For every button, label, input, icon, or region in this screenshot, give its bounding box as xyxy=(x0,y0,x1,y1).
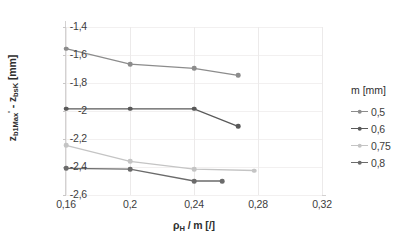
x-axis-title-sub: H xyxy=(179,224,184,233)
legend-item[interactable]: 0,8 xyxy=(351,154,391,171)
legend-item-label: 0,75 xyxy=(371,140,391,152)
series-line xyxy=(66,145,254,170)
y-axis-title-mid: - z xyxy=(6,96,18,110)
y-axis-title-main: z xyxy=(6,136,18,141)
legend-rows: 0,50,60,750,8 xyxy=(351,103,391,171)
y-tick-label: -2 xyxy=(78,104,87,116)
data-point-marker xyxy=(252,168,257,173)
data-point-marker xyxy=(236,124,241,129)
data-point-marker xyxy=(64,166,69,171)
gridline-vertical xyxy=(322,27,323,195)
data-point-marker xyxy=(192,107,197,112)
gridline-horizontal xyxy=(66,195,322,196)
data-point-marker xyxy=(128,62,133,67)
y-axis-title: zb1Max' - zbsK [mm] xyxy=(2,0,22,195)
legend-item[interactable]: 0,75 xyxy=(351,137,391,154)
x-tick-label: 0,32 xyxy=(302,198,342,210)
y-tick-label: -2,4 xyxy=(70,160,87,172)
data-point-marker xyxy=(64,143,69,148)
data-point-marker xyxy=(220,179,225,184)
y-axis-title-sub2: bsK xyxy=(11,82,20,96)
y-axis-title-sub1: b1Max xyxy=(11,112,20,135)
legend-swatch-icon xyxy=(351,124,368,133)
plot-area xyxy=(66,27,322,195)
data-point-marker xyxy=(192,179,197,184)
data-point-marker xyxy=(64,107,69,112)
series-line xyxy=(66,49,238,76)
series-line xyxy=(66,168,222,181)
x-tick-label: 0,2 xyxy=(110,198,150,210)
x-tick-label: 0,28 xyxy=(238,198,278,210)
legend-swatch-icon xyxy=(351,107,368,116)
legend-swatch-icon xyxy=(351,141,368,150)
legend-title: m [mm] xyxy=(351,84,391,96)
data-point-marker xyxy=(128,167,133,172)
legend-swatch-icon xyxy=(351,158,368,167)
y-axis-title-text: zb1Max' - zbsK [mm] xyxy=(6,54,18,140)
y-axis-title-unit: [mm] xyxy=(6,54,18,82)
y-tick-label: -1,4 xyxy=(70,20,87,32)
series-line xyxy=(66,109,238,127)
legend-item[interactable]: 0,6 xyxy=(351,120,391,137)
data-point-marker xyxy=(192,167,197,172)
legend-item-label: 0,8 xyxy=(371,157,385,169)
x-tick-label: 0,24 xyxy=(174,198,214,210)
y-tick-label: -2,2 xyxy=(70,132,87,144)
data-point-marker xyxy=(236,73,241,78)
legend-item-label: 0,5 xyxy=(371,106,385,118)
x-tick-label: 0,16 xyxy=(46,198,86,210)
chart-root: zb1Max' - zbsK [mm] ρH / m [/] -1,4-1,6-… xyxy=(0,0,413,244)
x-axis-title: ρH / m [/] xyxy=(66,219,322,231)
data-point-marker xyxy=(64,46,69,51)
data-point-marker xyxy=(128,159,133,164)
data-point-marker xyxy=(192,66,197,71)
legend-item-label: 0,6 xyxy=(371,123,385,135)
data-point-marker xyxy=(128,107,133,112)
x-axis-title-rest: / m [/] xyxy=(185,219,215,231)
y-tick-label: -1,8 xyxy=(70,76,87,88)
y-tick-label: -1,6 xyxy=(70,48,87,60)
legend: m [mm] 0,50,60,750,8 xyxy=(351,84,391,171)
y-axis-title-prime: ' xyxy=(6,111,15,113)
y-axis-tick xyxy=(63,195,66,196)
legend-item[interactable]: 0,5 xyxy=(351,103,391,120)
